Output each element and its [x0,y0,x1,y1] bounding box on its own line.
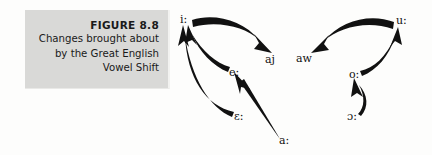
vowel-label-a-long: a: [279,135,289,146]
vowel-label-open-o-long: ɔ: [347,111,357,122]
vowel-label-i-long: i: [180,14,187,25]
shift-arrow-i-to-aj [192,17,272,53]
vowel-label-o-long: o: [349,69,359,80]
shift-arrow-a-to-e [234,72,280,139]
shift-arrow-epsilon-to-i [178,25,234,117]
vowel-shift-arrows [0,0,432,155]
vowel-shift-diagram: i: e: ɛ: a: aj aw u: o: ɔ: [0,0,432,155]
vowel-label-aw: aw [296,53,312,64]
shift-arrow-o-to-u [360,27,402,76]
shift-arrow-e-to-i [185,25,230,72]
vowel-label-e-long: e: [229,67,239,78]
vowel-label-u-long: u: [396,15,407,26]
vowel-label-aj: aj [265,54,275,65]
shift-arrow-u-to-aw [311,18,394,53]
vowel-label-epsilon-long: ɛ: [234,111,243,122]
